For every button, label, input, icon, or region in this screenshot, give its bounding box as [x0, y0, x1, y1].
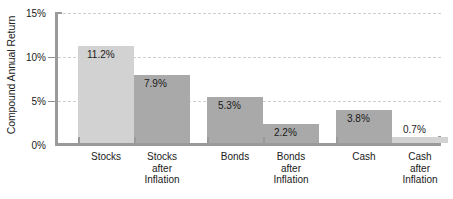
x-label-bonds-line1: Bonds: [207, 151, 263, 163]
bar-value-stocks-after-inflation: 7.9%: [144, 78, 167, 89]
x-tick-mark-3: [207, 137, 209, 144]
y-tick-label-15: 15%: [18, 8, 46, 19]
bar-cash-after-inflation[interactable]: [392, 137, 448, 143]
y-axis-title-text: Compound Annual Return: [5, 16, 17, 135]
x-tick-mark-5: [336, 137, 338, 144]
bar-value-cash: 3.8%: [347, 113, 370, 124]
y-tick-label-5: 5%: [18, 96, 46, 107]
bar-value-stocks: 11.2%: [87, 49, 115, 60]
x-label-cash-after-inflation-line1: Cash: [392, 151, 448, 163]
bar-value-cash-after-inflation: 0.7%: [403, 124, 426, 135]
x-label-stocks-after-inflation: Stocks after Inflation: [134, 151, 190, 186]
x-label-bonds-after-inflation: Bonds after Inflation: [263, 151, 319, 186]
y-tick-mark-10: [48, 57, 55, 58]
plot-area: 11.2% 7.9% 5.3% 2.2% 3.8% 0.7%: [55, 11, 441, 143]
chart-container: Compound Annual Return 15% 10% 5% 0% 11.…: [0, 0, 453, 199]
x-label-cash-after-inflation-line2: after: [392, 163, 448, 175]
y-axis-title: Compound Annual Return: [0, 0, 22, 150]
x-label-stocks-after-inflation-line1: Stocks: [134, 151, 190, 163]
x-label-stocks-line1: Stocks: [78, 151, 134, 163]
x-label-bonds-after-inflation-line3: Inflation: [263, 174, 319, 186]
x-tick-mark-1: [78, 137, 80, 144]
x-label-cash-line1: Cash: [336, 151, 392, 163]
y-tick-mark-5: [48, 101, 55, 102]
y-tick-label-0: 0%: [18, 140, 46, 151]
x-tick-mark-2: [134, 137, 136, 144]
x-label-bonds: Bonds: [207, 151, 263, 163]
x-label-cash: Cash: [336, 151, 392, 163]
x-tick-mark-4: [263, 137, 265, 144]
bar-value-bonds: 5.3%: [218, 100, 241, 111]
x-label-bonds-after-inflation-line2: after: [263, 163, 319, 175]
x-label-stocks: Stocks: [78, 151, 134, 163]
x-label-bonds-after-inflation-line1: Bonds: [263, 151, 319, 163]
bar-value-bonds-after-inflation: 2.2%: [274, 127, 297, 138]
x-label-cash-after-inflation-line3: Inflation: [392, 174, 448, 186]
x-label-stocks-after-inflation-line3: Inflation: [134, 174, 190, 186]
x-label-cash-after-inflation: Cash after Inflation: [392, 151, 448, 186]
y-tick-label-10: 10%: [18, 52, 46, 63]
x-axis-line: [55, 143, 441, 146]
x-label-stocks-after-inflation-line2: after: [134, 163, 190, 175]
bar-stocks[interactable]: [78, 46, 134, 143]
